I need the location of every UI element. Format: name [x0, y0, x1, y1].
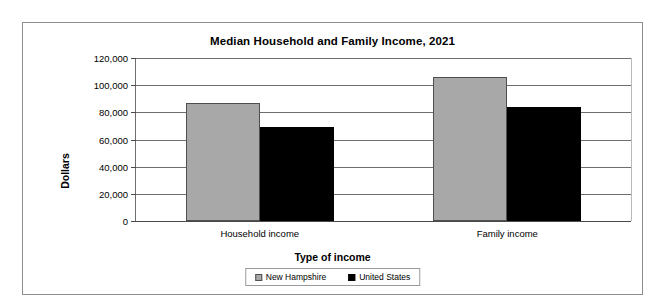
legend-entry-new-hampshire: New Hampshire [255, 272, 326, 282]
y-tick-label: 80,000 [99, 107, 128, 118]
legend-swatch-icon [348, 274, 355, 281]
y-tick-mark [131, 221, 136, 222]
y-axis-title: Dollars [59, 153, 71, 189]
legend-entry-united-states: United States [348, 272, 410, 282]
y-tick-label: 60,000 [99, 134, 128, 145]
x-tick-label: Household income [220, 228, 299, 239]
y-tick-label: 120,000 [94, 53, 128, 64]
legend-swatch-icon [255, 274, 262, 281]
y-tick-label: 20,000 [99, 188, 128, 199]
x-tick-label: Family income [477, 228, 538, 239]
bar-household-income-united-states [260, 127, 334, 221]
legend-label: New Hampshire [266, 272, 326, 282]
y-tick-mark [131, 167, 136, 168]
gridline [136, 58, 631, 59]
gridline [136, 85, 631, 86]
y-tick-label: 0 [123, 216, 128, 227]
y-tick-label: 40,000 [99, 161, 128, 172]
chart-legend: New HampshireUnited States [245, 268, 421, 286]
gridline [136, 221, 631, 222]
bar-household-income-new-hampshire [186, 103, 260, 221]
y-tick-mark [131, 194, 136, 195]
y-tick-mark [131, 112, 136, 113]
legend-label: United States [359, 272, 410, 282]
plot-area: 120,000100,00080,00060,00040,00020,0000H… [135, 58, 632, 221]
y-tick-mark [131, 85, 136, 86]
bar-family-income-united-states [507, 107, 581, 221]
y-tick-mark [131, 58, 136, 59]
bar-family-income-new-hampshire [433, 77, 507, 221]
chart-frame: Median Household and Family Income, 2021… [22, 22, 643, 295]
y-tick-label: 100,000 [94, 80, 128, 91]
chart-title: Median Household and Family Income, 2021 [23, 35, 642, 47]
x-axis-title: Type of income [23, 251, 642, 263]
y-tick-mark [131, 140, 136, 141]
